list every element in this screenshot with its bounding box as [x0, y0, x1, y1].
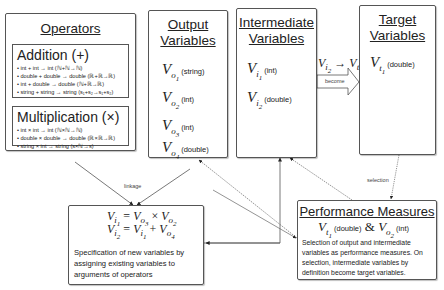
performance-measures-box: Performance Measures Vt1(double) & Vo2(i…: [297, 200, 437, 280]
specification-box: Vi1 = Vo3 × Vo2 Vi2 = Vi1 + Vo4 Specific…: [68, 205, 204, 285]
output-variable-2: Vo2(int): [162, 89, 194, 111]
selection-line: [391, 155, 399, 199]
rule: • double × double → double (ℝ×ℝ→ℝ): [17, 134, 128, 142]
output-title: Output Variables: [149, 17, 227, 49]
target-variable-1: Vt1(double): [370, 54, 415, 76]
intermediate-title-line2: Variables: [249, 31, 304, 46]
rule: • int + double → double (ℕ+ℝ→ℝ): [17, 80, 128, 88]
selection-label: selection: [367, 177, 389, 183]
target-title-line1: Target: [379, 12, 417, 27]
specification-description: Specification of new variables by assign…: [74, 247, 199, 280]
multiplication-label: Multiplication (×): [17, 109, 128, 125]
perf-to-intermediate-line: [290, 158, 352, 200]
output-variable-4: Vo4(double): [162, 139, 209, 161]
performance-measures-list: Vt1(double) & Vo2(int): [318, 219, 409, 239]
rule: • string × int → string (s×ℕ→s): [17, 142, 128, 150]
intermediate-title-line1: Intermediate: [239, 15, 314, 30]
rule: • double + double → double (ℝ+ℝ→ℝ): [17, 72, 128, 80]
intermediate-title: Intermediate Variables: [237, 15, 316, 47]
target-title-line2: Variables: [370, 28, 425, 43]
operators-title: Operators: [6, 21, 135, 37]
spec-to-intermediate-line: [204, 158, 280, 243]
rule: • int × int → int (ℕ×ℕ→ℕ): [17, 126, 128, 134]
perf-to-output-line: [199, 160, 297, 238]
become-formula: Vi2 → Vt1: [318, 56, 363, 75]
performance-description: Selection of output and intermediate var…: [302, 238, 436, 278]
output-variable-1: Vo1(string): [162, 61, 205, 83]
output-variables-box: Output Variables Vo1(string) Vo2(int) Vo…: [148, 10, 228, 158]
intermediate-variable-1: Vi1(int): [247, 60, 277, 82]
intermediate-variables-box: Intermediate Variables Vi1(int) Vi2(doub…: [236, 8, 317, 158]
become-label: become: [325, 78, 345, 84]
intermediate-variable-2: Vi2(double): [247, 89, 292, 111]
target-title: Target Variables: [360, 12, 435, 44]
equation-2: Vi2 = Vi1 + Vo4: [107, 222, 175, 241]
target-variables-box: Target Variables Vt1(double): [359, 5, 436, 155]
output-title-line1: Output: [168, 17, 209, 32]
addition-group: Addition (+) • int + int → int (ℕ+ℕ→ℕ) •…: [12, 44, 129, 98]
operators-box: Operators Addition (+) • int + int → int…: [5, 13, 136, 151]
rule: • int + int → int (ℕ+ℕ→ℕ): [17, 64, 128, 72]
linkage-label: linkage: [124, 183, 141, 189]
output-variable-3: Vo3(int): [162, 117, 194, 139]
performance-title: Performance Measures: [298, 204, 436, 220]
addition-label: Addition (+): [17, 47, 128, 63]
linkage-line-output: [137, 169, 190, 205]
multiplication-group: Multiplication (×) • int × int → int (ℕ×…: [12, 106, 129, 146]
output-title-line2: Variables: [160, 33, 215, 48]
rule: • string + string → string (s₁+s₂→s₁+s₂): [17, 88, 128, 96]
spec-to-perf-line: [213, 190, 296, 238]
